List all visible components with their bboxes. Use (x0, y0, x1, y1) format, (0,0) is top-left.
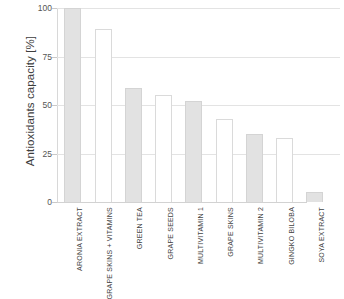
x-label-multivitamin-2: MULTIVITAMIN 2 (257, 207, 264, 264)
y-tick-label-75: 75 (12, 52, 52, 62)
bar-multivitamin-2 (246, 134, 263, 202)
x-label-grape-skins-vitamins: GRAPE SKINS + VITAMINS (106, 207, 113, 299)
x-label-grape-skins: GRAPE SKINS (227, 207, 234, 257)
y-tick-mark-25 (52, 154, 57, 155)
y-tick-label-100: 100 (12, 3, 52, 13)
bar-grape-skins-vitamins (95, 29, 112, 202)
x-label-aronia-extract: ARONIA EXTRACT (76, 207, 83, 271)
y-tick-mark-100 (52, 8, 57, 9)
x-axis-labels: ARONIA EXTRACTGRAPE SKINS + VITAMINSGREE… (57, 203, 340, 291)
x-label-multivitamin-1: MULTIVITAMIN 1 (197, 207, 204, 264)
y-tick-label-0: 0 (12, 197, 52, 207)
y-tick-mark-50 (52, 105, 57, 106)
bar-multivitamin-1 (185, 101, 202, 202)
y-tick-mark-75 (52, 57, 57, 58)
x-label-soya-extract: SOYA EXTRACT (318, 207, 325, 263)
gridline-100 (57, 8, 340, 9)
bar-green-tea (125, 88, 142, 202)
y-tick-mark-0 (52, 202, 57, 203)
bar-grape-seeds (155, 95, 172, 202)
bar-gingko-biloba (276, 138, 293, 202)
x-label-green-tea: GREEN TEA (136, 207, 143, 249)
bar-soya-extract (306, 192, 323, 202)
bar-grape-skins (216, 119, 233, 202)
plot-area (57, 8, 340, 202)
y-tick-label-25: 25 (12, 149, 52, 159)
bar-aronia-extract (64, 8, 81, 202)
x-label-grape-seeds: GRAPE SEEDS (167, 207, 174, 259)
x-label-gingko-biloba: GINGKO BILOBA (288, 207, 295, 265)
y-tick-label-50: 50 (12, 100, 52, 110)
